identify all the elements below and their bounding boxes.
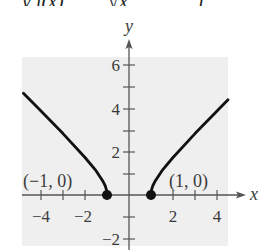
x-tick-label: −4 bbox=[32, 207, 51, 226]
point-1-0 bbox=[146, 190, 156, 200]
point-label-left: (−1, 0) bbox=[23, 171, 72, 192]
x-tick-label: 2 bbox=[169, 207, 178, 226]
x-tick-label: −2 bbox=[74, 207, 92, 226]
point-neg1-0 bbox=[102, 190, 112, 200]
x-tick-label: 4 bbox=[213, 207, 222, 226]
y-axis-label: y bbox=[123, 16, 133, 36]
point-label-right: (1, 0) bbox=[169, 171, 208, 192]
y-tick-label: 4 bbox=[112, 100, 121, 119]
y-tick-label: −2 bbox=[102, 230, 120, 249]
y-tick-label: 6 bbox=[112, 56, 121, 75]
y-tick-label: 2 bbox=[112, 143, 121, 162]
x-axis-label: x bbox=[249, 184, 258, 204]
function-graph: −4 −2 2 4 6 4 2 −2 x y (−1, 0) (1, 0) bbox=[0, 0, 263, 252]
